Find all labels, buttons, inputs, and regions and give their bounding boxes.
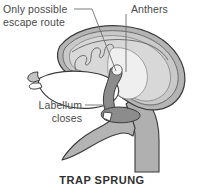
- label-escape-route-line1: Only possible: [3, 3, 67, 15]
- figure-caption: TRAP SPRUNG: [0, 174, 204, 186]
- anther-cap: [112, 65, 122, 75]
- figure-trap-sprung: Only possibleescape route Anthers Labell…: [0, 0, 204, 194]
- label-anthers: Anthers: [131, 3, 168, 16]
- orchid-trap-diagram: [0, 0, 204, 194]
- label-labellum-closes: Labellumcloses: [16, 99, 82, 124]
- label-labellum-line2: closes: [52, 112, 82, 124]
- left-spur-tip: [28, 72, 40, 82]
- label-labellum-line1: Labellum: [39, 99, 82, 111]
- label-anthers-line1: Anthers: [131, 3, 168, 15]
- label-escape-route: Only possibleescape route: [3, 3, 67, 28]
- label-escape-route-line2: escape route: [3, 16, 65, 28]
- left-spur-lower-tip: [29, 83, 42, 89]
